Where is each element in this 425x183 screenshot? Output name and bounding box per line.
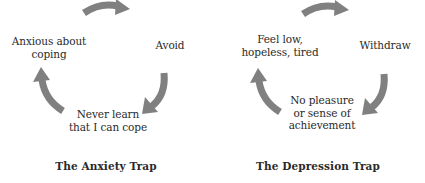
- diagram-caption: The Depression Trap: [212, 160, 424, 172]
- arrow-right-icon: [152, 73, 164, 106]
- arrow-right-icon: [372, 74, 384, 107]
- node-no-pleasure: No pleasure or sense of achievement: [287, 94, 357, 132]
- node-avoid: Avoid: [140, 39, 200, 52]
- arrow-top-icon: [84, 5, 118, 13]
- arrow-top-icon: [303, 6, 337, 14]
- anxiety-trap-diagram: Anxious about coping Avoid Never learn t…: [0, 0, 212, 183]
- node-feel-low: Feel low, hopeless, tired: [240, 33, 320, 58]
- diagram-caption: The Anxiety Trap: [0, 160, 212, 172]
- node-withdraw: Withdraw: [352, 39, 418, 52]
- cycle-arrows: [212, 0, 425, 183]
- node-anxious-about-coping: Anxious about coping: [3, 35, 95, 60]
- cycle-arrows: [0, 0, 212, 183]
- arrow-left-icon: [259, 81, 280, 112]
- arrow-left-icon: [42, 80, 63, 111]
- node-never-learn: Never learn that I can cope: [63, 108, 153, 133]
- depression-trap-diagram: Feel low, hopeless, tired Withdraw No pl…: [212, 0, 424, 183]
